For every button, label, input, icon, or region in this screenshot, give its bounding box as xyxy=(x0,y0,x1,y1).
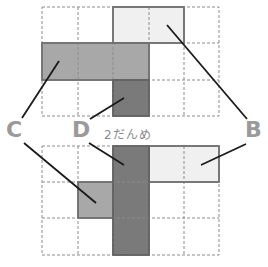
label-b: B xyxy=(245,119,262,141)
leader-c-top xyxy=(22,61,59,118)
layer-caption: 2だんめ xyxy=(104,125,152,142)
leader-b-top xyxy=(167,25,247,119)
leader-c-bottom xyxy=(24,143,96,203)
top-grid xyxy=(42,7,219,116)
bottom-grid xyxy=(42,146,219,255)
bottom-piece-c xyxy=(78,182,113,218)
label-d: D xyxy=(72,119,90,141)
top-piece-d xyxy=(113,80,149,116)
label-c: C xyxy=(6,119,22,141)
